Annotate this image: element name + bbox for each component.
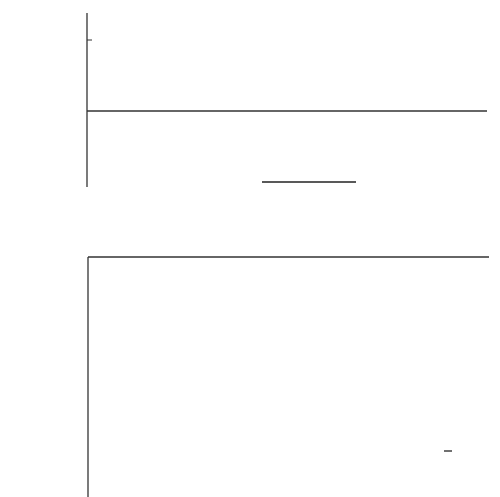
top-chart <box>87 13 487 187</box>
x-axis-fraction-label <box>0 0 356 182</box>
bottom-chart <box>88 257 489 497</box>
figure <box>0 0 500 497</box>
